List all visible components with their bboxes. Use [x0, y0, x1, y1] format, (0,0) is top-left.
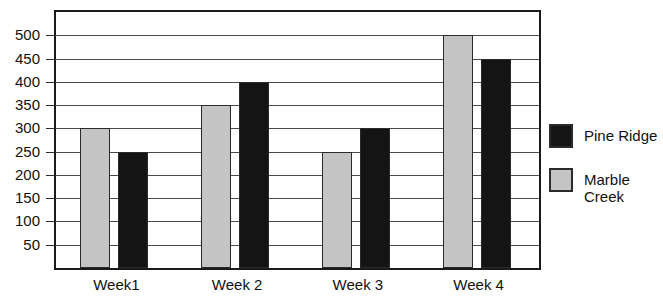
- x-axis-tick-label: Week 4: [418, 276, 539, 293]
- bar: [118, 152, 148, 268]
- bar: [443, 35, 473, 268]
- y-axis-tick-label: 250: [15, 144, 40, 159]
- y-axis-tick-label: 300: [15, 120, 40, 135]
- y-axis-tick-label: 50: [23, 237, 40, 252]
- legend-item: Marble Creek: [549, 168, 630, 205]
- y-axis-tick-label: 350: [15, 97, 40, 112]
- y-axis-tick-label: 400: [15, 74, 40, 89]
- bar-chart: 50100150200250300350400450500 Week1Week …: [0, 0, 663, 300]
- y-axis-tick-label: 100: [15, 213, 40, 228]
- bars-layer: [56, 12, 539, 268]
- bar: [481, 59, 511, 268]
- legend-swatch: [549, 124, 573, 148]
- legend-label: Pine Ridge: [584, 124, 657, 144]
- legend-swatch: [549, 168, 573, 192]
- y-axis-tick-label: 200: [15, 167, 40, 182]
- x-axis-tick-label: Week1: [56, 276, 177, 293]
- bar: [322, 152, 352, 268]
- plot-area: [54, 10, 541, 270]
- y-axis-tick-label: 500: [15, 27, 40, 42]
- y-axis-tick-label: 150: [15, 190, 40, 205]
- legend-item: Pine Ridge: [549, 124, 657, 148]
- x-axis-tick-label: Week 3: [298, 276, 419, 293]
- x-axis-tick-label: Week 2: [177, 276, 298, 293]
- y-axis-labels: 50100150200250300350400450500: [0, 0, 40, 300]
- y-axis-tick-label: 450: [15, 51, 40, 66]
- legend-label: Marble Creek: [584, 168, 630, 205]
- bar: [239, 82, 269, 268]
- bar: [201, 105, 231, 268]
- bar: [80, 128, 110, 268]
- bar: [360, 128, 390, 268]
